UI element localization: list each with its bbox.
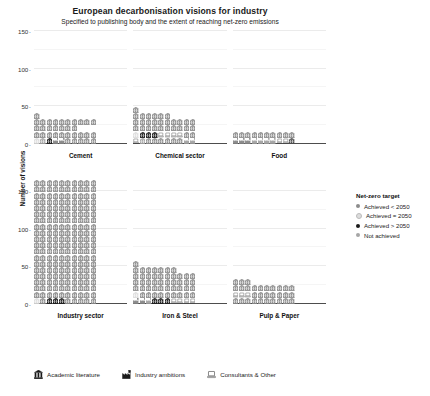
bank-icon <box>78 242 84 248</box>
legend-item[interactable]: Not achieved <box>356 232 430 239</box>
bank-icon <box>34 267 40 273</box>
pictogram-row <box>34 267 97 273</box>
factory-icon <box>264 138 270 144</box>
y-axis-tick: 150 <box>18 187 31 194</box>
bank-icon <box>84 211 90 217</box>
pictogram-stack <box>133 261 226 304</box>
bank-icon <box>59 261 65 267</box>
bank-icon <box>78 217 84 223</box>
gridline <box>233 265 326 266</box>
bank-icon <box>59 236 65 242</box>
bank-icon <box>84 119 90 125</box>
bank-icon <box>53 217 59 223</box>
bank-icon <box>65 230 71 236</box>
publishing-body-legend-item[interactable]: Industry ambitions <box>122 370 185 379</box>
chart-title: European decarbonisation visions for ind… <box>0 6 340 16</box>
bank-icon <box>152 292 158 298</box>
bank-icon <box>59 285 65 291</box>
bank-icon <box>91 255 97 261</box>
publishing-body-legend-item[interactable]: Consultants & Other <box>207 370 276 379</box>
bank-icon <box>72 255 78 261</box>
gridline-minor <box>133 86 226 87</box>
bank-icon <box>78 119 84 125</box>
bank-icon <box>65 199 71 205</box>
bank-icon <box>72 230 78 236</box>
bank-icon <box>47 248 53 254</box>
bank-icon <box>65 217 71 223</box>
bank-icon <box>47 273 53 279</box>
bank-icon <box>91 267 97 273</box>
bank-icon <box>65 125 71 131</box>
bank-icon <box>171 273 177 279</box>
bank-icon <box>190 119 196 125</box>
bank-icon <box>53 186 59 192</box>
legend-item[interactable]: Achieved < 2050 <box>356 203 430 210</box>
bank-icon <box>59 248 65 254</box>
bank-icon <box>84 230 90 236</box>
bank-icon <box>177 292 183 298</box>
laptop-icon <box>277 138 283 144</box>
pictogram-row <box>34 180 97 186</box>
bank-icon <box>59 119 65 125</box>
factory-icon <box>59 138 65 144</box>
bank-icon <box>72 205 78 211</box>
publishing-body-legend-item[interactable]: Academic literature <box>34 370 100 379</box>
pictogram-stack <box>133 107 226 144</box>
bank-icon <box>84 273 90 279</box>
bank-icon <box>190 279 196 285</box>
pictogram-row <box>233 132 296 138</box>
legend-item[interactable]: Achieved = 2050 <box>356 212 430 219</box>
bank-icon <box>177 273 183 279</box>
pictogram-row <box>34 193 97 199</box>
bank-icon <box>34 180 40 186</box>
bank-icon <box>84 261 90 267</box>
bank-icon <box>283 132 289 138</box>
bank-icon <box>72 236 78 242</box>
facet-panel-label: Cement <box>34 152 127 159</box>
pictogram-row <box>233 298 296 304</box>
bank-icon <box>165 292 171 298</box>
bank-icon <box>59 224 65 230</box>
bank-icon <box>158 267 164 273</box>
bank-icon <box>40 186 46 192</box>
bank-icon <box>34 211 40 217</box>
bank-icon <box>289 292 295 298</box>
bank-icon <box>270 292 276 298</box>
bank-icon <box>171 125 177 131</box>
bank-icon <box>53 298 59 304</box>
bank-icon <box>59 267 65 273</box>
bank-icon <box>72 125 78 131</box>
pictogram-row <box>34 132 97 138</box>
bank-icon <box>264 292 270 298</box>
bank-icon <box>190 273 196 279</box>
bank-icon <box>40 255 46 261</box>
bank-icon <box>53 224 59 230</box>
legend-item-label: Not achieved <box>364 232 400 239</box>
bank-icon <box>91 248 97 254</box>
bank-icon <box>78 261 84 267</box>
bank-icon <box>72 248 78 254</box>
bank-icon <box>277 298 283 304</box>
bank-icon <box>47 199 53 205</box>
bank-icon <box>165 298 171 304</box>
bank-icon <box>184 132 190 138</box>
bank-icon <box>78 273 84 279</box>
legend-title: Net-zero target <box>356 192 430 199</box>
gridline <box>233 190 326 191</box>
bank-icon <box>146 292 152 298</box>
bank-icon <box>264 132 270 138</box>
bank-icon <box>47 193 53 199</box>
bank-icon <box>171 292 177 298</box>
bank-icon <box>177 119 183 125</box>
bank-icon <box>53 211 59 217</box>
legend-item[interactable]: Achieved > 2050 <box>356 222 430 229</box>
bank-icon <box>47 125 53 131</box>
gridline <box>34 105 127 106</box>
bank-icon <box>190 285 196 291</box>
bank-icon <box>53 292 59 298</box>
factory-icon <box>184 138 190 144</box>
bank-icon <box>72 267 78 273</box>
bank-icon <box>158 279 164 285</box>
pictogram-row <box>133 292 196 298</box>
facet-panel-label: Food <box>233 152 326 159</box>
